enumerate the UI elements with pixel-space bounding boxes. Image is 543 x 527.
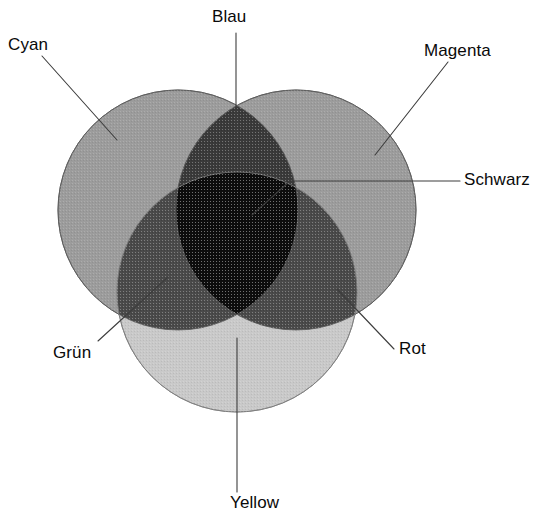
label-schwarz: Schwarz [464, 171, 530, 188]
leader-line-magenta [375, 62, 448, 155]
venn-diagram-figure: Cyan Blau Magenta Schwarz Rot Grün Yello… [0, 0, 543, 527]
leader-line-cyan [42, 56, 117, 140]
label-rot: Rot [399, 340, 426, 357]
label-gruen: Grün [53, 344, 91, 361]
label-magenta: Magenta [424, 42, 491, 59]
label-blau: Blau [212, 8, 246, 25]
label-yellow: Yellow [230, 494, 279, 511]
venn-diagram-canvas [0, 0, 543, 527]
label-cyan: Cyan [8, 36, 48, 53]
